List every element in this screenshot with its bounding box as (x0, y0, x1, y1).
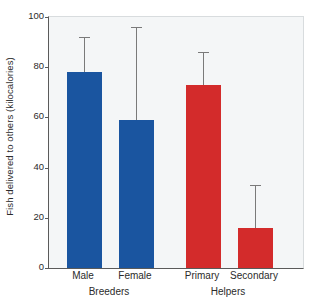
error-cap-male (79, 37, 90, 38)
y-tick-label-60: 60 (18, 111, 44, 121)
y-tick-mark-40 (45, 168, 49, 169)
bar-male[interactable] (67, 72, 102, 268)
group-axis-labels: BreedersHelpers (48, 286, 302, 300)
error-bar-female (136, 27, 137, 120)
error-bar-male (84, 37, 85, 72)
y-tick-mark-20 (45, 218, 49, 219)
group-label-helpers: Helpers (183, 286, 273, 297)
chart-figure: Fish delivered to others (kilocalories) … (0, 0, 322, 304)
error-bar-secondary (255, 185, 256, 228)
y-tick-mark-60 (45, 117, 49, 118)
y-tick-mark-100 (45, 17, 49, 18)
category-axis-labels: MaleFemalePrimarySecondary (48, 270, 302, 284)
error-cap-female (131, 27, 142, 28)
y-tick-label-40: 40 (18, 162, 44, 172)
y-tick-mark-0 (45, 268, 49, 269)
y-tick-label-20: 20 (18, 212, 44, 222)
plot-area (48, 16, 304, 269)
y-tick-label-80: 80 (18, 61, 44, 71)
y-axis-tick-labels: 020406080100 (16, 0, 44, 304)
y-tick-label-0: 0 (18, 262, 44, 272)
error-bar-primary (203, 52, 204, 85)
error-cap-secondary (250, 185, 261, 186)
bar-female[interactable] (119, 120, 154, 268)
y-axis-title-text: Fish delivered to others (kilocalories) (4, 57, 15, 216)
y-tick-label-100: 100 (18, 11, 44, 21)
bar-primary[interactable] (186, 85, 221, 268)
error-cap-primary (198, 52, 209, 53)
category-label-secondary: Secondary (214, 270, 294, 281)
group-label-breeders: Breeders (64, 286, 154, 297)
y-tick-mark-80 (45, 67, 49, 68)
bar-secondary[interactable] (238, 228, 273, 268)
